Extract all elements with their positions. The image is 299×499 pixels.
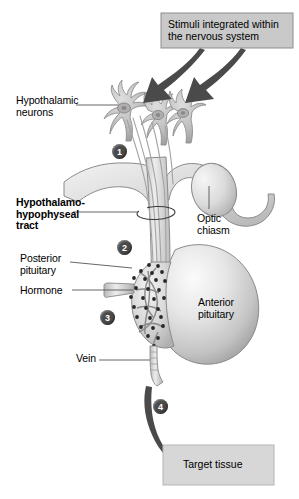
step-badge-4: 4	[153, 399, 168, 414]
stimuli-box-text: Stimuli integrated within the nervous sy…	[168, 18, 290, 42]
hypothalamic-neurons-label: Hypothalamic neurons	[16, 95, 78, 118]
callout-boxes	[0, 0, 299, 499]
step-badge-2: 2	[117, 240, 132, 255]
posterior-pituitary-label: Posterior pituitary	[20, 253, 61, 276]
optic-chiasm-label: Optic chiasm	[197, 213, 230, 236]
target-tissue-box-text: Target tissue	[183, 458, 283, 470]
hypothalamo-hypophyseal-tract-label: Hypothalamo- hypophyseal tract	[16, 197, 85, 232]
vein-label: Vein	[76, 353, 96, 365]
hormone-label: Hormone	[20, 285, 63, 297]
figure-canvas: Stimuli integrated within the nervous sy…	[0, 0, 299, 499]
step-badge-3: 3	[100, 310, 115, 325]
anterior-pituitary-label: Anterior pituitary	[198, 297, 234, 320]
step-badge-1: 1	[112, 144, 127, 159]
